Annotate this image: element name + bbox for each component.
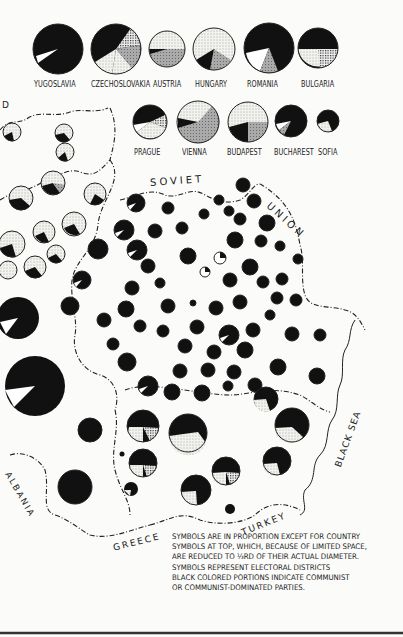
pie-czechoslovakia (91, 24, 141, 74)
label-romania: ROMANIA (247, 79, 278, 89)
pie-vienna (177, 101, 219, 143)
label-d: D (2, 100, 12, 110)
pie-hungary (193, 28, 235, 70)
pie-bucharest (275, 105, 307, 137)
label-yugoslavia: YUGOSLAVIA (34, 79, 76, 89)
label-bulgaria: BULGARIA (301, 79, 334, 89)
pie-prague (133, 105, 167, 139)
legend-note: SYMBOLS ARE IN PROPORTION EXCEPT FOR COU… (172, 532, 384, 593)
bulgaria-districts (120, 408, 310, 514)
pie-bulgaria (298, 28, 338, 68)
note-line: SYMBOLS AT TOP, WHICH, BECAUSE OF LIMITE… (172, 542, 384, 552)
note-line: BLACK COLORED PORTIONS INDICATE COMMUNIS… (172, 573, 384, 583)
pie-yugoslavia (33, 24, 83, 74)
note-line: ARE REDUCED TO ⅓RD OF THEIR ACTUAL DIAME… (172, 552, 384, 562)
label-budapest: BUDAPEST (227, 147, 262, 157)
label-sofia: SOFIA (318, 147, 337, 157)
pie-austria (149, 31, 185, 67)
pie-sofia (317, 110, 339, 132)
label-bucharest: BUCHAREST (274, 147, 314, 157)
label-czechoslovakia: CZECHOSLOVAKIA (91, 79, 150, 89)
pie-romania (244, 23, 294, 73)
label-austria: AUSTRIA (153, 79, 181, 89)
label-hungary: HUNGARY (195, 79, 227, 89)
note-line: SYMBOLS REPRESENT ELECTORAL DISTRICTS (172, 563, 384, 573)
note-line: SYMBOLS ARE IN PROPORTION EXCEPT FOR COU… (172, 532, 384, 542)
country-legend-symbols (33, 23, 338, 74)
label-vienna: VIENNA (182, 147, 207, 157)
city-legend-symbols (133, 101, 339, 143)
black-sea-coastline (300, 320, 355, 515)
pie-budapest (228, 102, 268, 142)
label-prague: PRAGUE (134, 147, 160, 157)
note-line: OR COMMUNIST-DOMINATED PARTIES. (172, 583, 384, 593)
